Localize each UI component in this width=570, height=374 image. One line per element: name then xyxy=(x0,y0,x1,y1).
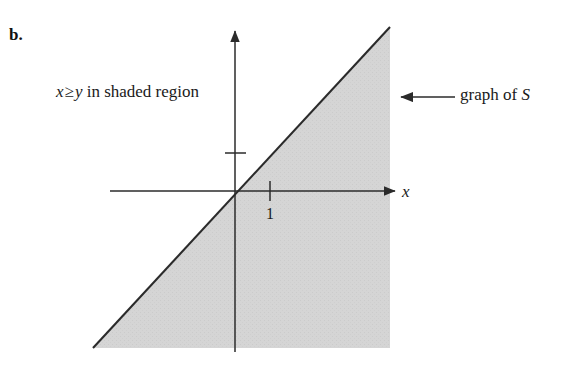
graph-callout-prefix: graph of xyxy=(460,85,521,104)
graph-callout-label: graph of S xyxy=(460,86,530,103)
x-axis-tick-label-1: 1 xyxy=(266,205,274,222)
graph-callout-set-name: S xyxy=(521,85,530,104)
x-axis-label: x xyxy=(401,182,410,201)
coordinate-plane: 1 x xyxy=(0,0,570,374)
shaded-region-note: x≥y in shaded region xyxy=(56,83,199,100)
figure-canvas: b. xyxy=(0,0,570,374)
region-note-relation: ≥ xyxy=(64,82,75,101)
region-note-var-x: x xyxy=(56,82,64,101)
region-note-rest: in shaded region xyxy=(82,82,199,101)
